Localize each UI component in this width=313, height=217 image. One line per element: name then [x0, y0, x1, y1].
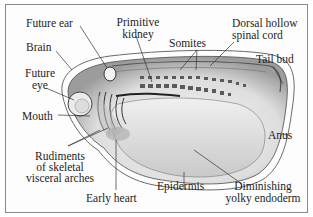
label-early-heart: Early heart [86, 192, 137, 204]
label-tail-bud: Tail bud [256, 53, 294, 65]
label-brain: Brain [26, 41, 52, 53]
label-epidermis: Epidermis [157, 180, 204, 192]
label-future-eye-line1: Future [22, 67, 58, 79]
label-yolky-line1: Diminishing [220, 180, 306, 192]
early-heart [106, 127, 130, 141]
label-yolky-line2: yolky endoderm [220, 192, 306, 204]
label-mouth: Mouth [22, 110, 53, 122]
label-future-eye-line2: eye [22, 79, 58, 91]
label-future-ear: Future ear [26, 17, 73, 29]
label-primitive-kidney-line1: Primitive [113, 16, 163, 28]
label-dorsal-cord-line1: Dorsal hollow [232, 17, 297, 29]
label-rudiments-line3: visceral arches [20, 172, 100, 184]
label-dorsal-cord-line2: spinal cord [232, 29, 283, 41]
label-anus: Anus [268, 129, 292, 141]
future-ear [104, 67, 116, 81]
label-primitive-kidney-line2: kidney [113, 28, 163, 40]
label-somites: Somites [169, 37, 206, 49]
